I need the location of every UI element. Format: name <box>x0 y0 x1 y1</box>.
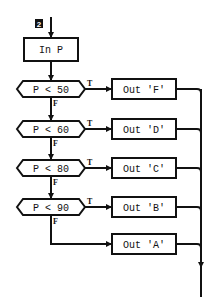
false-label: F <box>53 139 58 148</box>
flowchart: 2 In P P < 50 T Out 'F' F P < 60 T Out '… <box>0 0 215 306</box>
output-label: Out 'C' <box>123 164 165 175</box>
decision-p-lt-50: P < 50 <box>17 81 85 97</box>
merge-connector <box>176 244 201 248</box>
true-label: T <box>87 119 93 128</box>
step-badge: 2 <box>35 19 43 29</box>
input-box: In P <box>24 38 78 61</box>
true-label: T <box>87 158 93 167</box>
exit-arrow-icon <box>198 262 204 268</box>
true-label: T <box>87 197 93 206</box>
output-label: Out 'A' <box>123 240 165 251</box>
false-label: F <box>53 178 58 187</box>
output-box-c: Out 'C' <box>112 158 176 178</box>
false-arrow <box>51 215 111 244</box>
decision-label: P < 90 <box>33 203 69 214</box>
decision-label: P < 50 <box>33 85 69 96</box>
input-box-label: In P <box>39 45 63 56</box>
decision-p-lt-90: P < 90 <box>17 199 85 215</box>
output-box-b: Out 'B' <box>112 197 176 217</box>
merge-connector <box>176 168 201 172</box>
output-box-d: Out 'D' <box>112 119 176 139</box>
false-label: F <box>53 99 58 108</box>
merge-connector <box>176 89 201 93</box>
output-box-f: Out 'F' <box>112 79 176 99</box>
merge-connector <box>176 207 201 211</box>
merge-connector <box>176 129 201 133</box>
decision-p-lt-60: P < 60 <box>17 121 85 137</box>
decision-p-lt-80: P < 80 <box>17 160 85 176</box>
decision-label: P < 80 <box>33 164 69 175</box>
decision-label: P < 60 <box>33 125 69 136</box>
output-label: Out 'B' <box>123 203 165 214</box>
output-label: Out 'F' <box>123 85 165 96</box>
true-label: T <box>87 79 93 88</box>
false-label: F <box>53 217 58 226</box>
output-label: Out 'D' <box>123 125 165 136</box>
step-badge-label: 2 <box>37 20 42 29</box>
output-box-a: Out 'A' <box>112 234 176 254</box>
